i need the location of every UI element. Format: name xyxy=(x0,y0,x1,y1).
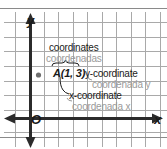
origin-label: O xyxy=(31,113,41,126)
y-axis xyxy=(26,13,36,148)
callout-coordinates-spanish: coordenadas xyxy=(46,54,102,64)
x-axis-label: x xyxy=(154,113,161,126)
callout-y-coordinate-english: y-coordinate xyxy=(85,69,138,79)
leader-x-coordinate xyxy=(60,77,69,94)
callout-y-coordinate-spanish: coordenada y xyxy=(92,80,150,90)
coordinate-plane-figure: y x O coordinates coordenadas A(1, 3) y-… xyxy=(0,0,167,149)
callout-x-coordinate-english: x-coordinate xyxy=(69,91,122,101)
callout-x-coordinate-spanish: coordenada x xyxy=(72,102,130,112)
point-a-marker xyxy=(36,72,41,77)
x-axis-arrow-left xyxy=(4,114,15,124)
callout-coordinates-english: coordinates xyxy=(49,43,99,53)
y-axis-label: y xyxy=(27,14,34,27)
point-a-label: A(1, 3) xyxy=(53,68,85,79)
y-axis-arrow-down xyxy=(26,137,36,148)
x-axis xyxy=(4,114,163,124)
